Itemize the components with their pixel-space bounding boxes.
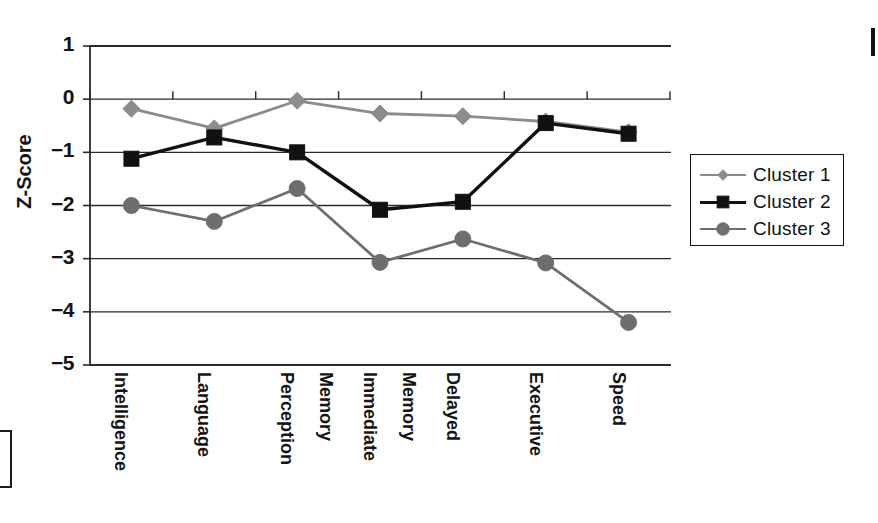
legend-item-label: Cluster 3 (753, 218, 831, 240)
legend-item[interactable]: Cluster 1 (691, 161, 843, 189)
legend-marker-icon (700, 165, 746, 185)
legend-item[interactable]: Cluster 2 (691, 188, 843, 216)
legend-item-label: Cluster 1 (753, 164, 831, 186)
x-axis-tick-label-text: Memory (315, 372, 336, 441)
y-axis-ticks (83, 46, 90, 365)
legend-marker-icon (700, 192, 746, 212)
x-axis-tick-label-text: Delayed (442, 372, 463, 441)
y-axis-tick-label: −3 (28, 245, 74, 269)
y-axis-tick-label: 0 (28, 85, 74, 109)
figure-canvas: 10−1−2−3−4−5 Z-Score IntelligenceLanguag… (0, 0, 878, 523)
chart-legend: Cluster 1Cluster 2Cluster 3 (690, 154, 844, 246)
line-chart-plot (0, 0, 878, 523)
x-axis-tick-label-text: Memory (398, 372, 419, 441)
data-series-layer (123, 92, 637, 330)
y-axis-title: Z-Score (13, 112, 36, 232)
y-axis-tick-label: −4 (28, 298, 74, 322)
x-axis-tick-label-text: Speed (608, 372, 629, 426)
x-axis-tick-label-text: Executive (525, 372, 546, 456)
y-axis-tick-label: 1 (28, 32, 74, 56)
x-axis-tick-label-text: Intelligence (110, 372, 131, 471)
x-axis-tick-label-text: Immediate (359, 372, 380, 461)
y-axis-tick-label: −5 (28, 351, 74, 375)
legend-marker-icon (700, 219, 746, 239)
x-axis-tick-label-text: Language (193, 372, 214, 457)
legend-item[interactable]: Cluster 3 (691, 215, 843, 243)
legend-item-label: Cluster 2 (753, 191, 831, 213)
scan-artifact-left (0, 430, 12, 488)
x-axis-tick-label-text: Perception (276, 372, 297, 465)
x-axis-ticks (90, 91, 671, 365)
scan-artifact-right (871, 28, 875, 56)
